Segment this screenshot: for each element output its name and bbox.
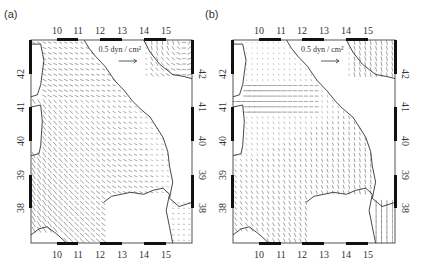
lon-tick-label-top: 14 — [139, 25, 149, 36]
axis-bar-bottom — [346, 242, 368, 245]
axis-bar-bottom — [100, 242, 122, 245]
axis-bar-right — [394, 175, 397, 208]
axis-bar-top — [144, 38, 166, 41]
lat-tick-label-right: 41 — [197, 102, 208, 112]
lat-tick-label-left: 42 — [217, 69, 228, 79]
map-panel-b: 1010111112121313141415154242414140403939… — [217, 25, 410, 260]
axis-bar-right — [394, 107, 397, 141]
lon-tick-label-top: 11 — [276, 25, 286, 36]
axis-bar-right — [394, 40, 397, 74]
lon-tick-label-bottom: 14 — [139, 249, 149, 260]
lat-tick-label-left: 39 — [217, 170, 228, 180]
lon-tick-label-bottom: 13 — [117, 249, 127, 260]
lat-tick-label-left: 38 — [217, 203, 228, 213]
lat-tick-label-left: 41 — [217, 102, 228, 112]
lon-tick-label-top: 12 — [297, 25, 307, 36]
lon-tick-label-top: 12 — [95, 25, 105, 36]
axis-bar-top — [259, 38, 281, 41]
axis-bar-bottom — [259, 242, 281, 245]
lon-tick-label-top: 11 — [73, 25, 83, 36]
axis-bar-bottom — [302, 242, 324, 245]
lon-tick-label-top: 13 — [319, 25, 329, 36]
lat-tick-label-left: 40 — [15, 136, 26, 146]
axis-bar-bottom — [144, 242, 166, 245]
axis-bar-left — [231, 40, 234, 74]
lon-tick-label-top: 14 — [341, 25, 351, 36]
axis-bar-right — [191, 107, 194, 141]
lon-tick-label-bottom: 11 — [276, 249, 286, 260]
axis-bar-right — [191, 40, 194, 74]
lon-tick-label-top: 10 — [254, 25, 264, 36]
axis-bar-right — [191, 175, 194, 208]
lon-tick-label-bottom: 11 — [73, 249, 83, 260]
axis-bar-left — [29, 40, 32, 74]
lat-tick-label-right: 39 — [197, 170, 208, 180]
lon-tick-label-bottom: 13 — [319, 249, 329, 260]
axis-bar-left — [29, 107, 32, 141]
lat-tick-label-left: 41 — [15, 102, 26, 112]
lon-tick-label-top: 13 — [117, 25, 127, 36]
lat-tick-label-right: 38 — [400, 203, 411, 213]
lat-tick-label-left: 42 — [15, 69, 26, 79]
map-panel-a: 1010111112121313141415154242414140403939… — [15, 25, 207, 260]
lon-tick-label-bottom: 15 — [161, 249, 171, 260]
lat-tick-label-right: 42 — [197, 69, 208, 79]
lat-tick-label-right: 42 — [400, 69, 411, 79]
lat-tick-label-right: 41 — [400, 102, 411, 112]
axis-bar-left — [231, 175, 234, 208]
lat-tick-label-right: 39 — [400, 170, 411, 180]
lat-tick-label-right: 38 — [197, 203, 208, 213]
lon-tick-label-bottom: 10 — [52, 249, 62, 260]
lon-tick-label-top: 15 — [363, 25, 373, 36]
lat-tick-label-left: 38 — [15, 203, 26, 213]
lat-tick-label-left: 39 — [15, 170, 26, 180]
axis-bar-left — [231, 107, 234, 141]
axis-bar-bottom — [57, 242, 78, 245]
lat-tick-label-right: 40 — [197, 136, 208, 146]
lon-tick-label-top: 15 — [161, 25, 171, 36]
lon-tick-label-top: 10 — [52, 25, 62, 36]
wind-stress-map-figure: 1010111112121313141415154242414140403939… — [0, 0, 423, 270]
lon-tick-label-bottom: 10 — [254, 249, 264, 260]
axis-bar-top — [100, 38, 122, 41]
lon-tick-label-bottom: 12 — [95, 249, 105, 260]
axis-bar-top — [346, 38, 368, 41]
lon-tick-label-bottom: 15 — [363, 249, 373, 260]
lon-tick-label-bottom: 14 — [341, 249, 351, 260]
lon-tick-label-bottom: 12 — [297, 249, 307, 260]
legend-scale-label: 0.5 dyn / cm² — [301, 45, 344, 54]
lat-tick-label-right: 40 — [400, 136, 411, 146]
legend-scale-label: 0.5 dyn / cm² — [99, 45, 142, 54]
axis-bar-top — [57, 38, 78, 41]
axis-bar-top — [302, 38, 324, 41]
axis-bar-left — [29, 175, 32, 208]
lat-tick-label-left: 40 — [217, 136, 228, 146]
